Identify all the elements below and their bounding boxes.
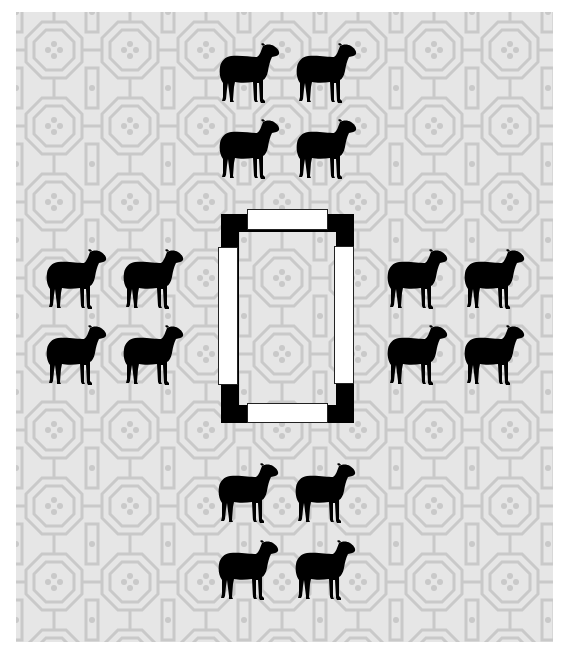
sheep-icon <box>464 325 526 387</box>
sheep-icon <box>464 249 526 311</box>
scene-canvas <box>16 12 553 642</box>
sheep-icon <box>123 325 185 387</box>
sheep-icon <box>123 249 185 311</box>
enclosure-bar-top <box>247 209 328 230</box>
sheep-icon <box>218 540 280 602</box>
sheep-icon <box>219 43 281 105</box>
sheep-icon <box>387 325 449 387</box>
enclosure-bar-right <box>334 246 354 384</box>
sheep-icon <box>387 249 449 311</box>
sheep-icon <box>295 463 357 525</box>
sheep-icon <box>46 249 108 311</box>
enclosure-bar-bottom <box>247 403 328 423</box>
sheep-icon <box>218 463 280 525</box>
enclosure-bar-left <box>218 247 238 385</box>
sheep-icon <box>296 43 358 105</box>
sheep-icon <box>46 325 108 387</box>
sheep-icon <box>296 119 358 181</box>
sheep-icon <box>295 540 357 602</box>
sheep-icon <box>219 119 281 181</box>
